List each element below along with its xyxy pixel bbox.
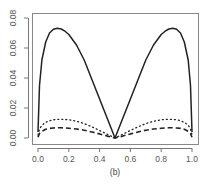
x-tick-label: 0.4 [94, 154, 106, 164]
x-tick-label: 1.0 [186, 154, 198, 164]
y-axis: 0.000.020.040.060.08 [8, 9, 28, 146]
y-tick-label: 0.02 [8, 99, 18, 116]
y-tick-label: 0.06 [8, 39, 18, 56]
x-tick-label: 0.6 [124, 154, 136, 164]
series-solid-line [38, 28, 192, 138]
series-layer [38, 28, 192, 138]
y-tick-label: 0.08 [8, 9, 18, 26]
chart: 0.000.020.040.060.08 0.00.20.40.60.81.0 … [0, 0, 210, 192]
plot-box [33, 14, 199, 145]
series-dotted-line [38, 119, 192, 138]
x-axis: 0.00.20.40.60.81.0 [32, 148, 198, 164]
x-tick-label: 0.2 [63, 154, 75, 164]
y-tick-label: 0.04 [8, 69, 18, 86]
x-tick-label: 0.0 [32, 154, 44, 164]
chart-caption: (b) [110, 167, 121, 177]
y-tick-label: 0.00 [8, 129, 18, 146]
x-tick-label: 0.8 [155, 154, 167, 164]
